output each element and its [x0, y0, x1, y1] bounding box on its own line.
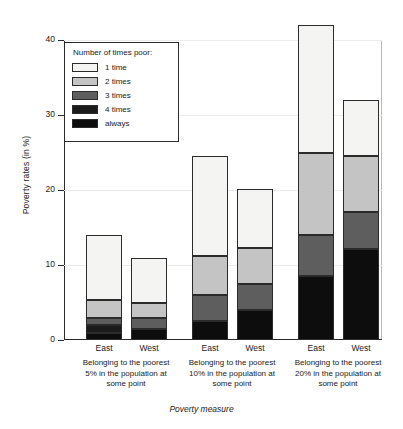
bar-segment: [131, 258, 167, 303]
y-tick-label: 0: [15, 334, 55, 345]
legend-swatch: [72, 77, 98, 86]
bar: [86, 235, 122, 340]
bar: [237, 189, 273, 340]
chart-legend: Number of times poor: 1 time2 times3 tim…: [64, 42, 179, 142]
legend-item-label: 3 times: [105, 91, 131, 100]
bar: [298, 25, 334, 340]
legend-item: 2 times: [72, 75, 172, 88]
legend-item: 1 time: [72, 61, 172, 74]
bar-segment: [343, 100, 379, 156]
y-tick-label: 20: [15, 184, 55, 195]
group-label-line: 10% in the population at: [176, 369, 288, 380]
legend-item-label: 1 time: [105, 63, 127, 72]
group-label-line: some point: [282, 379, 394, 390]
legend-swatch: [72, 91, 98, 100]
bar-segment: [237, 189, 273, 248]
bar: [131, 258, 167, 341]
bar-segment: [298, 25, 334, 153]
legend-item: always: [72, 117, 172, 130]
group-label-line: 5% in the population at: [70, 369, 182, 380]
legend-items: 1 time2 times3 times4 timesalways: [72, 61, 172, 130]
group-label-line: some point: [176, 379, 288, 390]
bar-segment: [343, 212, 379, 250]
bar-segment: [86, 318, 122, 326]
bar-segment: [298, 235, 334, 276]
group-label-line: Belonging to the poorest: [70, 358, 182, 369]
y-axis-title: Poverty rates (in %): [21, 105, 31, 245]
y-tick-label: 30: [15, 109, 55, 120]
bar-segment: [131, 318, 167, 329]
x-axis-group-labels: Belonging to the poorest5% in the popula…: [50, 358, 395, 400]
bar-segment: [86, 235, 122, 300]
x-axis-label: West: [225, 343, 285, 353]
y-tick-label: 40: [15, 34, 55, 45]
bar-segment: [298, 276, 334, 340]
x-axis-title: Poverty measure: [0, 404, 403, 414]
bar-segment: [86, 333, 122, 341]
bar-segment: [237, 310, 273, 340]
legend-item: 4 times: [72, 103, 172, 116]
bar-segment: [192, 295, 228, 321]
x-axis-label: West: [331, 343, 391, 353]
x-axis-label: West: [119, 343, 179, 353]
legend-title: Number of times poor:: [73, 48, 172, 57]
bar-segment: [131, 329, 167, 340]
bar-segment: [86, 325, 122, 333]
bar-segment: [237, 284, 273, 310]
bar-segment: [131, 303, 167, 318]
legend-item-label: 4 times: [105, 105, 131, 114]
bar-segment: [343, 249, 379, 340]
group-label-line: 20% in the population at: [282, 369, 394, 380]
bar-segment: [192, 321, 228, 340]
bar-segment: [237, 248, 273, 284]
bar: [343, 100, 379, 340]
x-axis-group-label: Belonging to the poorest5% in the popula…: [70, 358, 182, 390]
group-label-line: Belonging to the poorest: [282, 358, 394, 369]
x-axis-group-label: Belonging to the poorest10% in the popul…: [176, 358, 288, 390]
y-tick-label: 10: [15, 259, 55, 270]
legend-item-label: 2 times: [105, 77, 131, 86]
group-label-line: Belonging to the poorest: [176, 358, 288, 369]
x-axis-category-labels: EastWestEastWestEastWest: [64, 343, 382, 357]
bar: [192, 156, 228, 340]
legend-swatch: [72, 105, 98, 114]
x-axis-group-label: Belonging to the poorest20% in the popul…: [282, 358, 394, 390]
legend-item-label: always: [105, 119, 129, 128]
legend-item: 3 times: [72, 89, 172, 102]
group-label-line: some point: [70, 379, 182, 390]
poverty-rates-stacked-bar-chart: Poverty rates (in %) 010203040 EastWestE…: [0, 0, 403, 429]
legend-swatch: [72, 119, 98, 128]
bar-segment: [192, 256, 228, 295]
bar-segment: [298, 153, 334, 236]
bar-segment: [343, 156, 379, 212]
bar-segment: [86, 300, 122, 317]
bar-segment: [192, 156, 228, 256]
legend-swatch: [72, 63, 98, 72]
